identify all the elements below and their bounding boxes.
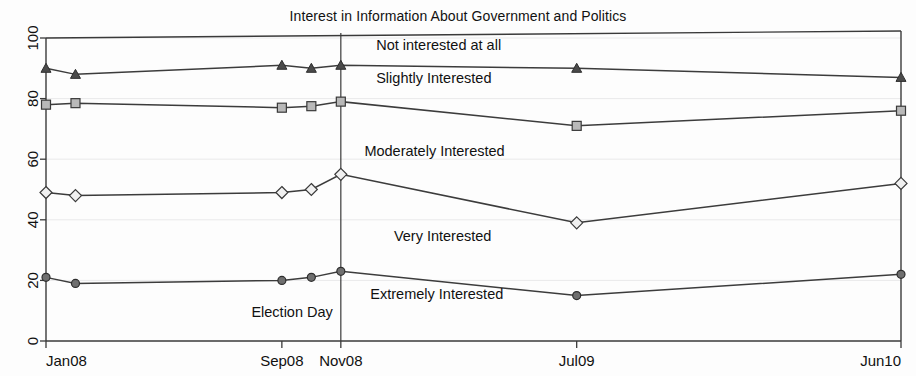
series-label-2: Moderately Interested xyxy=(364,143,504,159)
marker-open-diamond xyxy=(335,168,347,180)
marker-open-diamond xyxy=(895,177,907,189)
x-axis-tick-label: Jun10 xyxy=(860,352,901,369)
marker-filled-circle xyxy=(573,292,581,300)
series-inline-labels: Not interested at allSlightly Interested… xyxy=(364,37,504,301)
marker-filled-circle xyxy=(897,270,905,278)
marker-open-diamond xyxy=(40,187,52,199)
marker-filled-circle xyxy=(42,273,50,281)
series-label-4: Extremely Interested xyxy=(370,286,503,302)
x-axis-tick-labels: Jan08Sep08Nov08Jul09Jun10 xyxy=(46,352,901,369)
marker-open-diamond xyxy=(69,190,81,202)
marker-filled-circle xyxy=(337,267,345,275)
election-day-label: Election Day xyxy=(251,304,333,320)
marker-gray-square xyxy=(572,121,581,130)
chart-plot-area: 020406080100 Jan08Sep08Nov08Jul09Jun10 N… xyxy=(0,0,916,376)
series-label-0: Not interested at all xyxy=(376,37,501,53)
series-line xyxy=(46,102,901,126)
x-axis-tick-label: Jul09 xyxy=(559,352,595,369)
y-axis-tick-label: 0 xyxy=(24,337,41,345)
y-axis-tick-label: 40 xyxy=(24,211,41,228)
chart-annotations: Election Day xyxy=(251,304,333,320)
marker-filled-circle xyxy=(278,276,286,284)
y-axis-tick-label: 60 xyxy=(24,151,41,168)
series-markers xyxy=(40,60,907,299)
marker-filled-circle xyxy=(71,279,79,287)
marker-gray-square xyxy=(277,103,286,112)
x-axis-tick-label: Jan08 xyxy=(46,352,87,369)
y-axis-tick-labels: 020406080100 xyxy=(24,25,41,345)
marker-gray-square xyxy=(897,106,906,115)
marker-gray-square xyxy=(307,102,316,111)
marker-gray-square xyxy=(42,100,51,109)
marker-gray-square xyxy=(336,97,345,106)
marker-open-diamond xyxy=(571,217,583,229)
series-lines xyxy=(46,65,901,295)
line-chart-svg: 020406080100 Jan08Sep08Nov08Jul09Jun10 N… xyxy=(0,0,916,376)
marker-open-diamond xyxy=(305,184,317,196)
x-axis-tick-label: Sep08 xyxy=(260,352,303,369)
y-axis-tick-label: 100 xyxy=(24,25,41,50)
series-line xyxy=(46,174,901,222)
marker-filled-triangle xyxy=(41,63,51,72)
series-label-3: Very Interested xyxy=(394,228,492,244)
series-label-1: Slightly Interested xyxy=(376,70,491,86)
y-axis-tick-label: 80 xyxy=(24,90,41,107)
chart-screenshot: Interest in Information About Government… xyxy=(0,0,916,376)
marker-filled-circle xyxy=(307,273,315,281)
marker-open-diamond xyxy=(276,187,288,199)
y-axis-tick-label: 20 xyxy=(24,272,41,289)
marker-gray-square xyxy=(71,99,80,108)
x-axis-tick-label: Nov08 xyxy=(319,352,362,369)
x-axis-ticks xyxy=(46,341,901,348)
